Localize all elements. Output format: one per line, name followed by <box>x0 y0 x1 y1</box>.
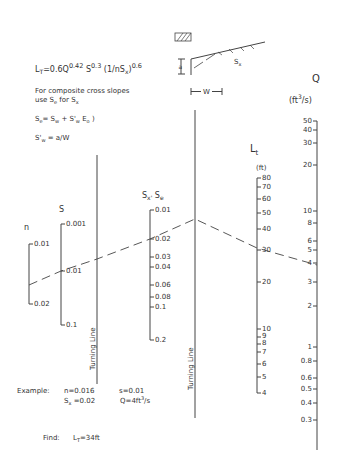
sx-se-scale: Sx' Se 0.01 0.02 0.03 0.04 0.06 0.08 0.1… <box>142 191 171 344</box>
svg-text:0.5: 0.5 <box>301 385 312 393</box>
svg-text:0.08: 0.08 <box>155 293 171 301</box>
svg-text:20: 20 <box>262 278 271 286</box>
svg-text:8: 8 <box>308 219 312 227</box>
svg-text:0.4: 0.4 <box>301 399 313 407</box>
svg-text:0.06: 0.06 <box>155 281 171 289</box>
sx-se-title: Sx' Se <box>142 191 164 201</box>
q-scale-title: Q <box>312 73 320 84</box>
svg-text:Find:: Find: <box>43 434 60 442</box>
svg-text:n=0.016: n=0.016 <box>64 387 95 395</box>
svg-text:2: 2 <box>308 302 312 310</box>
lt-unit: (ft) <box>256 164 267 172</box>
svg-text:Q=4ft3/s: Q=4ft3/s <box>120 395 150 405</box>
svg-text:0.03: 0.03 <box>155 253 171 261</box>
svg-text:6: 6 <box>262 360 267 368</box>
example-block: Example: n=0.016 s=0.01 Sx =0.02 Q=4ft3/… <box>17 387 150 406</box>
sx-inset-label: Sx <box>234 58 241 67</box>
svg-text:0.01: 0.01 <box>155 206 171 214</box>
svg-text:0.6: 0.6 <box>301 374 313 382</box>
lt-scale-title: Lt <box>250 143 259 157</box>
curb-hatch-icon <box>175 33 191 41</box>
svg-text:6: 6 <box>308 237 313 245</box>
svg-text:5: 5 <box>262 373 266 381</box>
svg-text:50: 50 <box>303 117 312 125</box>
svg-text:0.04: 0.04 <box>155 263 171 271</box>
n-scale: n 0.01 0.02 <box>24 223 50 308</box>
svg-text:0.01: 0.01 <box>34 240 50 248</box>
depth-a-label: a <box>179 63 183 70</box>
svg-text:60: 60 <box>262 195 271 203</box>
note-use-se: use Se for Sx <box>35 96 79 105</box>
q-unit: (ft3/s) <box>289 93 312 105</box>
svg-text:0.1: 0.1 <box>155 303 166 311</box>
svg-text:0.02: 0.02 <box>34 300 50 308</box>
example-solution-line <box>29 219 317 285</box>
sw-equation: S'w = a/W <box>35 134 69 143</box>
svg-text:0.1: 0.1 <box>66 321 77 329</box>
svg-text:40: 40 <box>303 126 312 134</box>
turning-line-2: Turning Line <box>187 110 195 418</box>
turning-line-1: Turning Line <box>89 155 97 384</box>
nomograph: LT=0.6Q0.42 S0.3 (1/nSx)0.6 For composit… <box>0 0 344 461</box>
s-scale-title: S <box>59 205 64 214</box>
n-scale-title: n <box>24 223 29 232</box>
svg-text:s=0.01: s=0.01 <box>119 387 144 395</box>
svg-text:LT=34ft: LT=34ft <box>73 434 100 443</box>
svg-text:Example:: Example: <box>17 387 50 395</box>
svg-text:10: 10 <box>303 207 312 215</box>
svg-text:Turning Line: Turning Line <box>187 348 195 391</box>
svg-text:0.001: 0.001 <box>66 220 86 228</box>
svg-text:40: 40 <box>262 225 271 233</box>
svg-text:0.2: 0.2 <box>155 336 166 344</box>
svg-text:4: 4 <box>262 389 267 397</box>
svg-text:8: 8 <box>262 339 266 347</box>
svg-text:7: 7 <box>262 348 266 356</box>
svg-text:30: 30 <box>303 139 312 147</box>
svg-text:80: 80 <box>262 174 271 182</box>
find-block: Find: LT=34ft <box>43 434 100 443</box>
svg-text:20: 20 <box>303 161 312 169</box>
svg-text:50: 50 <box>262 209 271 217</box>
svg-text:5: 5 <box>308 246 312 254</box>
note-composite: For composite cross slopes <box>35 87 130 95</box>
svg-text:0.8: 0.8 <box>301 357 312 365</box>
gutter-cross-section: Sx a W <box>175 33 265 96</box>
formula: LT=0.6Q0.42 S0.3 (1/nSx)0.6 <box>35 62 142 75</box>
width-w-label: W <box>203 88 210 96</box>
svg-text:70: 70 <box>262 183 271 191</box>
svg-text:1: 1 <box>308 343 312 351</box>
svg-text:3: 3 <box>308 278 312 286</box>
svg-text:Sx =0.02: Sx =0.02 <box>64 397 95 406</box>
lt-scale: Lt (ft) 80 70 60 50 40 30 20 10 9 8 7 <box>250 143 271 397</box>
se-equation: Se= Sw + S'w Eo ) <box>35 115 95 124</box>
svg-text:0.02: 0.02 <box>155 235 171 243</box>
svg-text:Turning Line: Turning Line <box>89 328 97 371</box>
svg-text:0.3: 0.3 <box>301 416 312 424</box>
